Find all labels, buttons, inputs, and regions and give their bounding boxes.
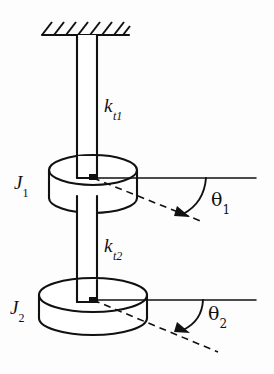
diagram-canvas bbox=[0, 0, 274, 374]
label-theta2: θ2 bbox=[208, 304, 227, 327]
angle-arc-1 bbox=[183, 178, 206, 214]
label-j1: J1 bbox=[14, 173, 28, 196]
disk-2-group bbox=[39, 278, 147, 335]
label-kt1: kt1 bbox=[104, 96, 122, 119]
label-theta2-symbol: θ bbox=[208, 302, 219, 324]
upper-shaft-body bbox=[77, 35, 97, 173]
label-kt2: kt2 bbox=[104, 236, 122, 259]
label-j1-subscript: 1 bbox=[22, 186, 28, 200]
label-theta1: θ1 bbox=[211, 190, 230, 213]
angle-arc-2 bbox=[183, 300, 203, 330]
label-kt2-symbol: k bbox=[104, 235, 112, 256]
label-j2-subscript: 2 bbox=[18, 311, 24, 325]
label-theta1-subscript: 1 bbox=[222, 203, 230, 217]
fixed-support-group bbox=[42, 22, 130, 35]
label-theta2-subscript: 2 bbox=[219, 317, 227, 331]
torsional-system-diagram: kt1 kt2 J1 J2 θ1 θ2 bbox=[0, 0, 274, 374]
label-kt1-symbol: k bbox=[104, 95, 112, 116]
support-hatching bbox=[42, 22, 130, 35]
label-kt1-subscript: t1 bbox=[113, 109, 122, 123]
label-kt2-subscript: t2 bbox=[113, 249, 122, 263]
label-theta1-symbol: θ bbox=[211, 188, 222, 210]
upper-shaft-group bbox=[77, 35, 97, 173]
label-j2: J2 bbox=[10, 298, 24, 321]
